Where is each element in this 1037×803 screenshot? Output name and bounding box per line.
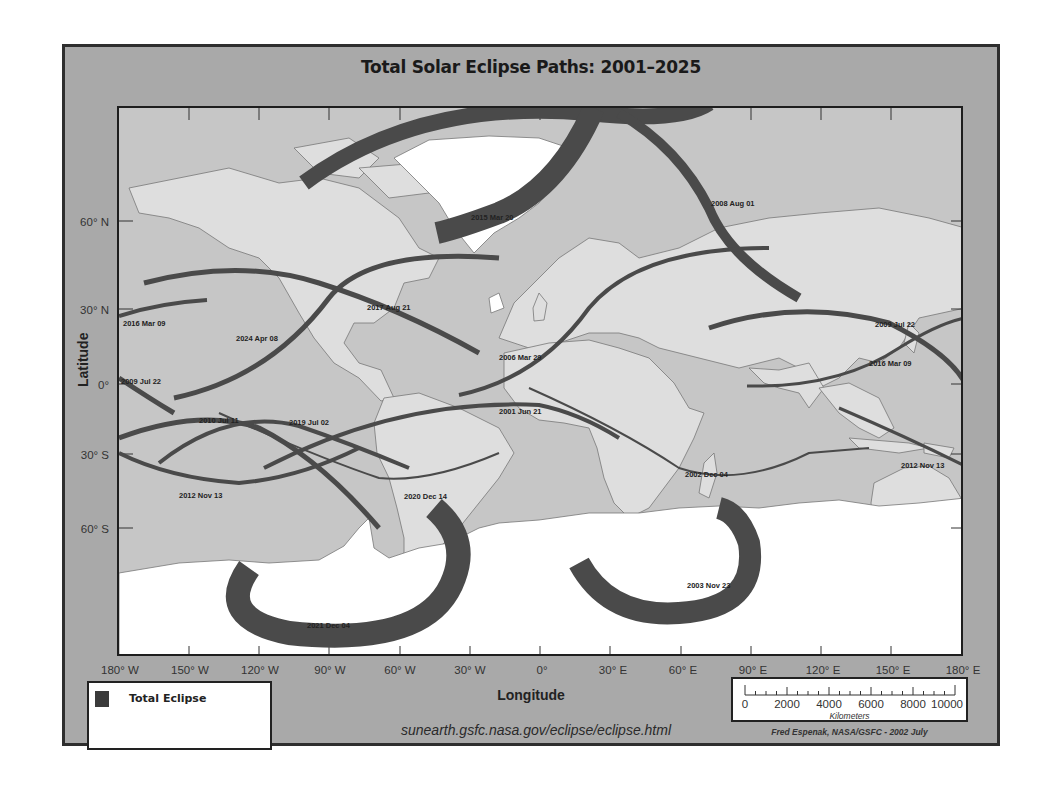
lon-tick: 90° E: [739, 664, 767, 676]
label-2010-jul-11: 2010 Jul 11: [199, 416, 239, 425]
lon-tick: 150° W: [171, 664, 209, 676]
lon-tick: 60° E: [669, 664, 697, 676]
scale-value: 2000: [774, 698, 800, 710]
lat-tick-60s: 60° S: [81, 523, 109, 535]
label-2003-nov-23: 2003 Nov 23: [687, 581, 730, 590]
lon-tick: 0°: [537, 664, 548, 676]
lat-tick-60n: 60° N: [80, 216, 109, 228]
label-2006-mar-29: 2006 Mar 29: [499, 353, 542, 362]
label-2015-mar-20: 2015 Mar 20: [471, 213, 514, 222]
lon-tick: 90° W: [314, 664, 345, 676]
scale-bar: 0 2000 4000 6000 8000 10000 Kilometers: [731, 677, 968, 722]
map-canvas: 2015 Mar 20 2008 Aug 01 2017 Aug 21 2016…: [119, 108, 963, 656]
label-2008-aug-01: 2008 Aug 01: [711, 199, 755, 208]
label-2016-mar-09-west: 2016 Mar 09: [123, 319, 166, 328]
world-map: 2015 Mar 20 2008 Aug 01 2017 Aug 21 2016…: [117, 106, 963, 656]
legend-label: Total Eclipse: [129, 692, 206, 705]
y-axis-title: Latitude: [75, 333, 91, 387]
label-2021-dec-04: 2021 Dec 04: [307, 621, 351, 630]
lat-tick-30s: 30° S: [81, 449, 109, 461]
lon-tick: 120° W: [241, 664, 279, 676]
label-2019-jul-02: 2019 Jul 02: [289, 418, 329, 427]
label-2009-jul-22-east: 2009 Jul 22: [875, 320, 915, 329]
lon-tick: 180° W: [101, 664, 139, 676]
scale-value: 8000: [900, 698, 926, 710]
label-2024-apr-08: 2024 Apr 08: [236, 334, 278, 343]
lon-tick: 30° E: [599, 664, 627, 676]
label-2020-dec-14: 2020 Dec 14: [404, 492, 448, 501]
scale-value: 10000: [931, 698, 963, 710]
lat-tick-0: 0°: [98, 379, 109, 391]
x-axis-ticks: 180° W 150° W 120° W 90° W 60° W 30° W 0…: [65, 656, 997, 676]
scale-value: 4000: [816, 698, 842, 710]
lon-tick: 30° W: [454, 664, 485, 676]
label-2017-aug-21: 2017 Aug 21: [367, 303, 411, 312]
source-url: sunearth.gsfc.nasa.gov/eclipse/eclipse.h…: [401, 722, 671, 738]
lat-tick-30n: 30° N: [80, 304, 109, 316]
legend-swatch-total-eclipse: [95, 691, 109, 707]
label-2002-dec-04: 2002 Dec 04: [685, 470, 729, 479]
chart-title: Total Solar Eclipse Paths: 2001–2025: [65, 57, 997, 77]
chart-panel: Total Solar Eclipse Paths: 2001–2025: [62, 44, 1000, 746]
lon-tick: 150° E: [876, 664, 911, 676]
lon-tick: 180° E: [946, 664, 981, 676]
label-2009-jul-22-west: 2009 Jul 22: [121, 377, 161, 386]
scale-value: 6000: [858, 698, 884, 710]
label-2001-jun-21: 2001 Jun 21: [499, 407, 542, 416]
lon-tick: 120° E: [806, 664, 841, 676]
label-2012-nov-13-east: 2012 Nov 13: [901, 461, 944, 470]
label-2012-nov-13-west: 2012 Nov 13: [179, 491, 222, 500]
label-2016-mar-09-east: 2016 Mar 09: [869, 359, 912, 368]
scale-unit: Kilometers: [733, 711, 966, 721]
lon-tick: 60° W: [384, 664, 415, 676]
credit: Fred Espenak, NASA/GSFC - 2002 July: [731, 727, 968, 737]
scale-value: 0: [742, 698, 748, 710]
legend: Total Eclipse: [87, 681, 272, 750]
